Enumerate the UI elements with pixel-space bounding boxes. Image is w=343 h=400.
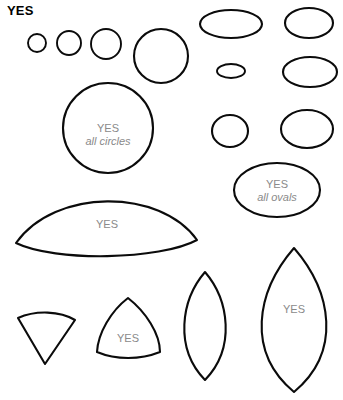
shape-circle-5-labelled <box>63 83 153 173</box>
shape-oval-6 <box>281 110 333 148</box>
shape-dome-labelled <box>16 201 197 256</box>
shape-vesica-large-labelled <box>262 248 327 392</box>
shape-oval-7-labelled <box>234 163 320 217</box>
shape-oval-1 <box>200 10 262 38</box>
shape-figure: YES YES all circles YES <box>0 0 343 400</box>
shape-circle-3 <box>91 29 121 59</box>
shape-oval-5 <box>212 115 248 147</box>
shape-oval-2 <box>285 8 333 38</box>
shape-vesica-small <box>184 272 225 380</box>
shape-oval-3 <box>217 64 245 78</box>
shape-wedge <box>18 313 75 364</box>
shape-canvas <box>0 0 343 400</box>
shape-circle-1 <box>28 34 46 52</box>
shape-circle-4 <box>134 29 188 83</box>
shape-reuleaux-labelled <box>97 298 160 358</box>
shape-circle-2 <box>57 31 81 55</box>
shape-oval-4 <box>283 57 337 87</box>
